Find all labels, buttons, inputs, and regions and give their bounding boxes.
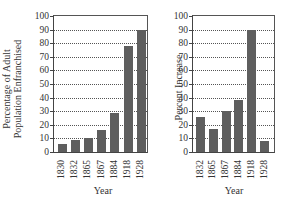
y-tick-label: 70	[166, 52, 188, 62]
y-tick-label: 100	[166, 11, 188, 21]
gridline	[193, 98, 274, 99]
gridline	[193, 84, 274, 85]
y-tick-label: 0	[166, 147, 188, 157]
bar-1918	[247, 30, 256, 152]
x-axis-label-right: Year	[204, 185, 264, 196]
x-tick-label: 1918	[246, 160, 256, 179]
x-tick-label: 1884	[233, 160, 243, 179]
bar-1865	[209, 129, 218, 152]
y-tick-label: 30	[166, 106, 188, 116]
x-tick-label: 1867	[220, 160, 230, 179]
bar-1884	[234, 100, 243, 152]
y-tick-label: 10	[166, 133, 188, 143]
bar-1867	[222, 111, 231, 152]
y-tick-label: 20	[166, 120, 188, 130]
y-tick-label: 60	[166, 65, 188, 75]
x-tick-label: 1865	[207, 160, 217, 179]
gridline	[193, 57, 274, 58]
gridline	[193, 30, 274, 31]
gridline	[193, 43, 274, 44]
bar-1928	[260, 141, 269, 152]
bar-1832	[196, 117, 205, 152]
x-tick-label: 1832	[195, 160, 205, 179]
y-tick-label: 40	[166, 93, 188, 103]
y-tick-label: 90	[166, 25, 188, 35]
y-tick-label: 50	[166, 79, 188, 89]
y-tick-label: 80	[166, 38, 188, 48]
x-tick-label: 1928	[259, 160, 269, 179]
plot-area-right	[192, 15, 275, 153]
chart-percent-increase: Percent Increase 0102030405060708090100 …	[0, 0, 287, 204]
gridline	[193, 70, 274, 71]
